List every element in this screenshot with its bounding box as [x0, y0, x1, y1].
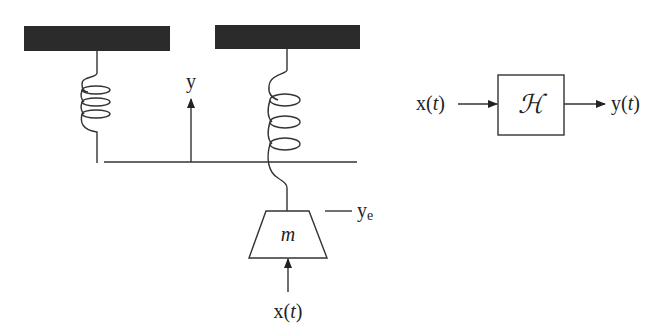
left-ceiling-support	[24, 26, 170, 51]
mass-label: m	[281, 223, 295, 245]
right-spring	[268, 49, 300, 211]
displacement-label: y	[186, 70, 196, 93]
equilibrium-label: ye	[357, 199, 373, 223]
spring-mass-diagram: y ye m x(t) x(t) ℋ y(t)	[0, 0, 668, 326]
left-spring	[81, 51, 110, 163]
block-input-label: x(t)	[416, 92, 445, 115]
input-force-label: x(t)	[274, 300, 303, 323]
right-ceiling-support	[215, 25, 360, 49]
system-label: ℋ	[518, 90, 548, 119]
block-output-label: y(t)	[611, 92, 640, 115]
system-block-diagram: x(t) ℋ y(t)	[416, 75, 640, 135]
